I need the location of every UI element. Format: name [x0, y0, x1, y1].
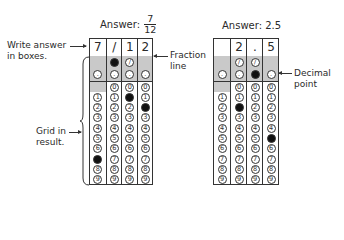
digit-8-bubble[interactable]: 8: [93, 165, 102, 174]
decimal-point-bubble[interactable]: .: [267, 70, 276, 79]
digit-1-bubble[interactable]: 1: [110, 93, 119, 102]
digit-9-bubble[interactable]: 9: [251, 175, 260, 184]
digit-9-bubble[interactable]: 9: [93, 175, 102, 184]
digit-2-bubble[interactable]: 2: [218, 103, 227, 112]
digit-4-bubble[interactable]: 4: [141, 124, 150, 133]
digit-2-bubble[interactable]: 2: [251, 103, 260, 112]
digit-4-bubble[interactable]: 4: [235, 124, 244, 133]
digit-6-bubble[interactable]: 6: [218, 144, 227, 153]
digit-7-bubble[interactable]: 7: [218, 155, 227, 164]
digit-7-bubble[interactable]: 7: [125, 155, 134, 164]
decimal-point-label: Decimal point: [294, 68, 331, 90]
answer-box[interactable]: 2: [138, 39, 154, 56]
answer-box[interactable]: 7: [90, 39, 106, 56]
decimal-point-bubble[interactable]: .: [93, 70, 102, 79]
digit-4-bubble[interactable]: 4: [251, 124, 260, 133]
answer-box[interactable]: 1: [122, 39, 138, 56]
digit-9-bubble[interactable]: 9: [141, 175, 150, 184]
digit-5-bubble[interactable]: 5: [235, 134, 244, 143]
digit-6-bubble[interactable]: 6: [235, 144, 244, 153]
decimal-point-bubble[interactable]: .: [218, 70, 227, 79]
digit-1-bubble[interactable]: 1: [235, 93, 244, 102]
digit-7-bubble[interactable]: 7: [267, 155, 276, 164]
digit-3-bubble[interactable]: 3: [93, 113, 102, 122]
digit-0-bubble[interactable]: 0: [125, 83, 134, 92]
digit-1-bubble[interactable]: 1: [251, 93, 260, 102]
answer-box[interactable]: [214, 39, 230, 56]
answer-box[interactable]: 2: [231, 39, 247, 56]
digit-2-bubble[interactable]: 2: [93, 103, 102, 112]
digit-3-bubble[interactable]: 3: [125, 113, 134, 122]
fraction-slash-bubble[interactable]: /: [125, 58, 134, 67]
digit-5-bubble[interactable]: 5: [251, 134, 260, 143]
digit-3-bubble[interactable]: 3: [235, 113, 244, 122]
answer-box[interactable]: /: [107, 39, 123, 56]
digit-0-bubble[interactable]: 0: [141, 83, 150, 92]
digit-2-bubble[interactable]: 2: [235, 103, 244, 112]
digit-0-bubble[interactable]: 0: [235, 83, 244, 92]
fraction-slash-bubble[interactable]: /: [110, 58, 119, 67]
digit-8-bubble[interactable]: 8: [267, 165, 276, 174]
digit-2-bubble[interactable]: 2: [110, 103, 119, 112]
digit-5-bubble[interactable]: 5: [125, 134, 134, 143]
digit-5-bubble[interactable]: 5: [267, 134, 276, 143]
answer-box[interactable]: 5: [263, 39, 279, 56]
digit-3-bubble[interactable]: 3: [110, 113, 119, 122]
digit-9-bubble[interactable]: 9: [267, 175, 276, 184]
digit-8-bubble[interactable]: 8: [125, 165, 134, 174]
digit-6-bubble[interactable]: 6: [110, 144, 119, 153]
digit-5-bubble[interactable]: 5: [110, 134, 119, 143]
digit-6-bubble[interactable]: 6: [141, 144, 150, 153]
digit-1-bubble[interactable]: 1: [93, 93, 102, 102]
digit-3-bubble[interactable]: 3: [141, 113, 150, 122]
digit-1-bubble[interactable]: 1: [141, 93, 150, 102]
digit-9-bubble[interactable]: 9: [235, 175, 244, 184]
digit-3-bubble[interactable]: 3: [251, 113, 260, 122]
digit-7-bubble[interactable]: 7: [93, 155, 102, 164]
digit-2-bubble[interactable]: 2: [125, 103, 134, 112]
decimal-point-bubble[interactable]: .: [235, 70, 244, 79]
fraction-slash-bubble[interactable]: /: [235, 58, 244, 67]
digit-7-bubble[interactable]: 7: [251, 155, 260, 164]
digit-6-bubble[interactable]: 6: [251, 144, 260, 153]
digit-6-bubble[interactable]: 6: [93, 144, 102, 153]
digit-8-bubble[interactable]: 8: [110, 165, 119, 174]
decimal-point-bubble[interactable]: .: [141, 70, 150, 79]
digit-8-bubble[interactable]: 8: [141, 165, 150, 174]
digit-0-bubble[interactable]: 0: [267, 83, 276, 92]
digit-0-bubble[interactable]: 0: [110, 83, 119, 92]
digit-4-bubble[interactable]: 4: [218, 124, 227, 133]
digit-9-bubble[interactable]: 9: [110, 175, 119, 184]
digit-2-bubble[interactable]: 2: [141, 103, 150, 112]
digit-4-bubble[interactable]: 4: [93, 124, 102, 133]
decimal-point-bubble[interactable]: .: [110, 70, 119, 79]
digit-9-bubble[interactable]: 9: [125, 175, 134, 184]
digit-0-bubble[interactable]: 0: [251, 83, 260, 92]
digit-6-bubble[interactable]: 6: [267, 144, 276, 153]
decimal-point-bubble[interactable]: .: [251, 70, 260, 79]
digit-8-bubble[interactable]: 8: [235, 165, 244, 174]
digit-4-bubble[interactable]: 4: [110, 124, 119, 133]
digit-9-bubble[interactable]: 9: [218, 175, 227, 184]
fraction-slash-bubble[interactable]: /: [251, 58, 260, 67]
left-answer-grid: 7.123456789//.01234567891/.01234567892.0…: [89, 38, 153, 185]
answer-box[interactable]: .: [247, 39, 263, 56]
digit-2-bubble[interactable]: 2: [267, 103, 276, 112]
digit-8-bubble[interactable]: 8: [218, 165, 227, 174]
digit-3-bubble[interactable]: 3: [218, 113, 227, 122]
digit-5-bubble[interactable]: 5: [218, 134, 227, 143]
digit-1-bubble[interactable]: 1: [267, 93, 276, 102]
digit-3-bubble[interactable]: 3: [267, 113, 276, 122]
digit-5-bubble[interactable]: 5: [93, 134, 102, 143]
digit-1-bubble[interactable]: 1: [125, 93, 134, 102]
digit-7-bubble[interactable]: 7: [110, 155, 119, 164]
digit-4-bubble[interactable]: 4: [267, 124, 276, 133]
digit-8-bubble[interactable]: 8: [251, 165, 260, 174]
decimal-point-bubble[interactable]: .: [125, 70, 134, 79]
digit-7-bubble[interactable]: 7: [235, 155, 244, 164]
digit-7-bubble[interactable]: 7: [141, 155, 150, 164]
digit-4-bubble[interactable]: 4: [125, 124, 134, 133]
digit-1-bubble[interactable]: 1: [218, 93, 227, 102]
digit-6-bubble[interactable]: 6: [125, 144, 134, 153]
digit-5-bubble[interactable]: 5: [141, 134, 150, 143]
